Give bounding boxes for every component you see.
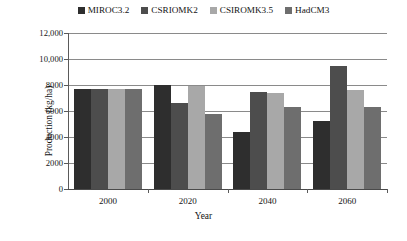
y-tick-label: 2000 <box>46 158 63 168</box>
legend-item[interactable]: CSIROMK3.5 <box>210 6 273 15</box>
x-axis-title: Year <box>0 211 407 221</box>
x-tick-mark <box>387 189 388 193</box>
bar[interactable] <box>188 86 205 189</box>
bar[interactable] <box>205 114 222 189</box>
bar-group <box>74 33 142 189</box>
legend-swatch-icon <box>210 7 217 14</box>
bar[interactable] <box>91 89 108 189</box>
legend-item-label: CSIROMK3.5 <box>220 6 273 15</box>
legend-item[interactable]: HadCM3 <box>285 6 329 15</box>
y-tick-label: 12,000 <box>39 28 63 38</box>
x-tick-mark <box>228 189 229 193</box>
x-tick-label: 2060 <box>338 196 356 206</box>
legend-item-label: CSRIOMK2 <box>151 6 197 15</box>
x-tick-mark <box>148 189 149 193</box>
x-tick-label: 2000 <box>99 196 117 206</box>
bar[interactable] <box>364 107 381 189</box>
legend-item[interactable]: CSRIOMK2 <box>141 6 197 15</box>
bar[interactable] <box>108 89 125 189</box>
chart-legend: MIROC3.2CSRIOMK2CSIROMK3.5HadCM3 <box>0 6 407 15</box>
bar[interactable] <box>74 89 91 189</box>
bars-layer <box>68 33 387 189</box>
y-tick-label: 0 <box>59 184 63 194</box>
legend-item[interactable]: MIROC3.2 <box>78 6 130 15</box>
y-tick-label: 10,000 <box>39 54 63 64</box>
y-axis-title: Production (kg/ha) <box>44 85 54 156</box>
bar[interactable] <box>171 103 188 189</box>
bar-group <box>233 33 301 189</box>
legend-item-label: HadCM3 <box>295 6 329 15</box>
x-tick-label: 2020 <box>179 196 197 206</box>
bar[interactable] <box>313 121 330 189</box>
bar[interactable] <box>125 89 142 189</box>
x-tick-mark <box>307 189 308 193</box>
bar[interactable] <box>250 92 267 190</box>
legend-swatch-icon <box>78 7 85 14</box>
bar[interactable] <box>233 132 250 189</box>
legend-item-label: MIROC3.2 <box>88 6 130 15</box>
legend-swatch-icon <box>141 7 148 14</box>
bar-group <box>154 33 222 189</box>
bar[interactable] <box>330 66 347 190</box>
bar-group <box>313 33 381 189</box>
bar[interactable] <box>154 85 171 189</box>
bar-chart: MIROC3.2CSRIOMK2CSIROMK3.5HadCM3 0200040… <box>0 0 407 241</box>
bar[interactable] <box>284 107 301 189</box>
x-tick-label: 2040 <box>258 196 276 206</box>
legend-swatch-icon <box>285 7 292 14</box>
bar[interactable] <box>267 93 284 189</box>
plot-area: 0200040006000800010,00012,000 2000202020… <box>68 33 387 189</box>
bar[interactable] <box>347 90 364 189</box>
